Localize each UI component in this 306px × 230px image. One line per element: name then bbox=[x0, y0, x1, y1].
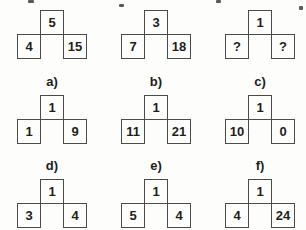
option-label-b: b) bbox=[121, 74, 191, 89]
option-label-c: c) bbox=[225, 74, 295, 89]
top-box: 1 bbox=[40, 95, 64, 120]
option-figure-c: 1 10 0 bbox=[225, 95, 295, 144]
bottom-right-box: ? bbox=[271, 34, 295, 59]
bottom-left-box: 10 bbox=[225, 119, 249, 144]
puzzle-figure-1: 5 4 15 bbox=[17, 10, 87, 59]
scan-speck bbox=[216, 0, 221, 3]
option-figure-d: 1 3 4 bbox=[17, 179, 87, 228]
top-box: 5 bbox=[40, 10, 64, 35]
top-box: 1 bbox=[248, 179, 272, 204]
puzzle-figure-2: 3 7 18 bbox=[121, 10, 191, 59]
bottom-right-box: 18 bbox=[167, 34, 191, 59]
option-figure-b: 1 11 21 bbox=[121, 95, 191, 144]
bottom-right-box: 4 bbox=[167, 203, 191, 228]
bottom-right-box: 21 bbox=[167, 119, 191, 144]
bottom-left-box: ? bbox=[225, 34, 249, 59]
bottom-right-box: 24 bbox=[271, 203, 295, 228]
scan-speck bbox=[28, 0, 34, 3]
option-label-f: f) bbox=[225, 158, 295, 173]
bottom-right-box: 4 bbox=[63, 203, 87, 228]
bottom-left-box: 4 bbox=[225, 203, 249, 228]
option-figure-f: 1 4 24 bbox=[225, 179, 295, 228]
option-label-a: a) bbox=[17, 74, 87, 89]
option-figure-a: 1 1 9 bbox=[17, 95, 87, 144]
bottom-left-box: 5 bbox=[121, 203, 145, 228]
bottom-left-box: 3 bbox=[17, 203, 41, 228]
option-label-e: e) bbox=[121, 158, 191, 173]
bottom-left-box: 1 bbox=[17, 119, 41, 144]
option-label-d: d) bbox=[17, 158, 87, 173]
bottom-right-box: 0 bbox=[271, 119, 295, 144]
top-box: 1 bbox=[248, 95, 272, 120]
top-box: 1 bbox=[144, 179, 168, 204]
scan-speck bbox=[119, 4, 124, 7]
puzzle-page: 5 4 15 3 7 18 1 ? ? a) b) c) 1 1 9 1 11 … bbox=[0, 0, 306, 230]
top-box: 1 bbox=[40, 179, 64, 204]
bottom-right-box: 15 bbox=[63, 34, 87, 59]
bottom-right-box: 9 bbox=[63, 119, 87, 144]
option-figure-e: 1 5 4 bbox=[121, 179, 191, 228]
bottom-left-box: 7 bbox=[121, 34, 145, 59]
top-box: 3 bbox=[144, 10, 168, 35]
top-box: 1 bbox=[144, 95, 168, 120]
scan-speck bbox=[299, 6, 303, 10]
bottom-left-box: 4 bbox=[17, 34, 41, 59]
puzzle-figure-3: 1 ? ? bbox=[225, 10, 295, 59]
bottom-left-box: 11 bbox=[121, 119, 145, 144]
top-box: 1 bbox=[248, 10, 272, 35]
